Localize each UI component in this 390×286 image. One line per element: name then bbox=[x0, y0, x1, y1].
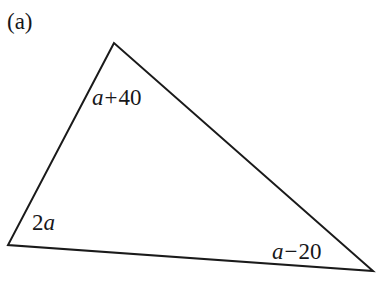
angle-left-coefficient: 2 bbox=[32, 210, 44, 235]
angle-right-variable: a bbox=[272, 239, 284, 264]
triangle-diagram bbox=[0, 0, 390, 286]
angle-right-constant: 20 bbox=[298, 239, 321, 264]
triangle-outline bbox=[8, 43, 373, 271]
figure-canvas: (a) a+40 2a a−20 bbox=[0, 0, 390, 286]
part-label: (a) bbox=[7, 10, 33, 33]
angle-apex-operator: + bbox=[104, 85, 119, 110]
angle-right-operator: − bbox=[284, 239, 299, 264]
angle-label-apex: a+40 bbox=[92, 86, 141, 109]
angle-apex-variable: a bbox=[92, 85, 104, 110]
angle-left-variable: a bbox=[44, 210, 56, 235]
angle-label-right: a−20 bbox=[272, 240, 321, 263]
angle-label-left: 2a bbox=[32, 211, 55, 234]
angle-apex-constant: 40 bbox=[118, 85, 141, 110]
